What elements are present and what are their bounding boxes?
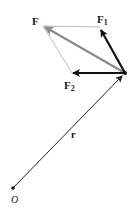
label-r: r xyxy=(71,129,76,140)
construction-line-F-F1 xyxy=(43,26,100,27)
origin-point xyxy=(11,186,15,190)
label-O: O xyxy=(11,194,18,205)
label-F1: F1 xyxy=(97,13,108,27)
force-diagram: F F1 F2 r O xyxy=(0,0,140,212)
label-F2: F2 xyxy=(64,79,75,93)
label-F2-sub: 2 xyxy=(71,84,75,93)
application-point xyxy=(123,71,127,75)
label-F: F xyxy=(32,15,39,27)
label-F1-sub: 1 xyxy=(104,18,108,27)
position-vector-r xyxy=(13,76,122,188)
